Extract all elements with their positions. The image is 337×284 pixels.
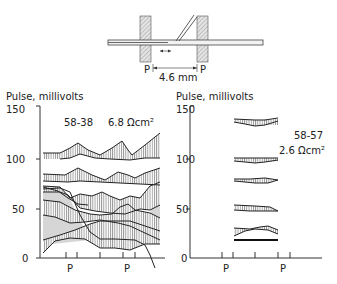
right-chart: Pulse, millivolts 150 100 50 0 58-57 2.6… xyxy=(176,91,325,274)
partition-right xyxy=(197,16,208,62)
right-experiment-id: 58-57 xyxy=(294,130,323,141)
partition-left xyxy=(140,16,151,62)
right-ytick-0: 0 xyxy=(181,253,187,264)
right-xtick-p2: P xyxy=(280,263,286,274)
left-ytick-100: 100 xyxy=(6,154,25,165)
right-ytick-100: 100 xyxy=(176,154,195,165)
right-resistance: 2.6 Ωcm² xyxy=(279,145,325,156)
right-xtick-p1: P xyxy=(223,263,229,274)
left-chart: Pulse, millivolts 150 100 50 0 58-38 6.8… xyxy=(6,91,165,274)
left-xtick-p1: P xyxy=(67,263,73,274)
distance-label: 4.6 mm xyxy=(159,72,198,83)
left-resistance: 6.8 Ωcm² xyxy=(108,117,154,128)
microelectrode-b xyxy=(179,17,197,41)
setup-diagram: P P 4.6 mm xyxy=(108,15,263,83)
left-experiment-id: 58-38 xyxy=(64,117,93,128)
diagram-p-left: P xyxy=(144,64,150,75)
microelectrode-a xyxy=(176,15,194,41)
left-xtick-p2: P xyxy=(124,263,130,274)
diagram-p-right: P xyxy=(200,64,206,75)
figure: P P 4.6 mm Pulse, millivolts 150 100 50 … xyxy=(0,0,337,284)
left-ytick-0: 0 xyxy=(22,253,28,264)
left-ytick-50: 50 xyxy=(12,204,25,215)
left-ytick-150: 150 xyxy=(6,104,25,115)
left-y-axis-label: Pulse, millivolts xyxy=(6,91,84,102)
right-y-axis-label: Pulse, millivolts xyxy=(176,91,254,102)
